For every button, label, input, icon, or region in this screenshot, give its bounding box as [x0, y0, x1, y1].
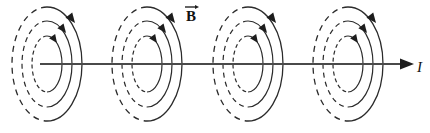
figure-canvas: B I	[0, 0, 430, 133]
magnetic-field-vector-label: B	[185, 5, 199, 24]
current-label: I	[416, 59, 423, 75]
field-direction-arrowhead	[49, 34, 60, 45]
field-direction-arrowhead	[358, 24, 370, 36]
field-direction-arrowhead	[157, 24, 169, 36]
field-direction-arrowhead	[149, 34, 160, 45]
current-direction-arrowhead	[400, 59, 414, 70]
field-direction-arrowhead	[57, 24, 69, 36]
field-direction-arrowhead	[258, 24, 270, 36]
field-direction-arrowhead	[350, 34, 361, 45]
magnetic-field-figure: B I	[0, 0, 430, 133]
magnetic-field-label-text: B	[186, 8, 196, 24]
vector-arrow-icon	[195, 5, 199, 9]
field-direction-arrowhead	[250, 34, 261, 45]
